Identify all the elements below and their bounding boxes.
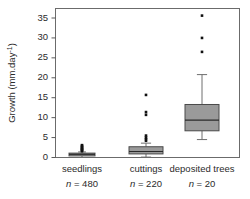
sample-size-label-2: n = 20 [189, 178, 216, 189]
box-group-seedlings [69, 144, 95, 158]
outlier-1-5 [145, 111, 148, 114]
box-2 [185, 104, 219, 130]
y-tick-label-10: 10 [37, 111, 48, 122]
y-tick-label-25: 25 [37, 51, 48, 62]
y-axis-title-close: ) [6, 43, 17, 46]
y-tick-label-15: 15 [37, 91, 48, 102]
outlier-1-3 [145, 134, 148, 137]
box-group-cuttings [129, 94, 163, 157]
sample-size-label-0: n = 480 [66, 178, 98, 189]
outlier-1-6 [145, 94, 148, 97]
y-tick-label-5: 5 [43, 131, 48, 142]
outlier-0-7 [81, 144, 84, 147]
y-axis-title: Growth (mm.day-1) [6, 43, 17, 123]
outlier-2-0 [201, 51, 204, 54]
category-label-0: seedlings [62, 163, 102, 174]
box-1 [129, 147, 163, 154]
box-plots [69, 14, 219, 157]
outlier-2-1 [201, 37, 204, 40]
y-tick-label-35: 35 [37, 12, 48, 23]
category-label-1: cuttings [130, 163, 163, 174]
plot-frame [56, 9, 240, 158]
y-axis-title-base: Growth (mm.day [6, 52, 17, 122]
sample-size-label-1: n = 220 [130, 178, 162, 189]
y-axis: 05101520253035 [37, 12, 55, 163]
y-tick-label-20: 20 [37, 71, 48, 82]
outlier-2-2 [201, 14, 204, 17]
y-tick-label-0: 0 [43, 151, 48, 162]
chart-canvas: 05101520253035 Growth (mm.day-1) seedlin… [0, 0, 250, 199]
box-plot-figure: 05101520253035 Growth (mm.day-1) seedlin… [0, 0, 250, 199]
y-tick-label-30: 30 [37, 31, 48, 42]
box-group-deposited-trees [185, 14, 219, 139]
x-axis-categories: seedlingsn = 480cuttingsn = 220deposited… [62, 163, 235, 189]
category-label-2: deposited trees [170, 163, 235, 174]
outlier-1-4 [145, 114, 148, 117]
